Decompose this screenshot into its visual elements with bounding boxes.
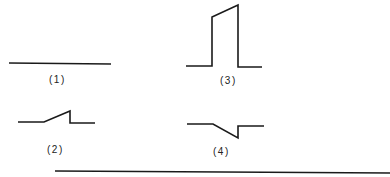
sloped-pulse-shape xyxy=(186,5,262,67)
ramp-up-drop-shape xyxy=(18,111,95,123)
figure-4: (4) xyxy=(187,124,264,157)
figure-1-label: (1) xyxy=(49,74,66,85)
figure-3: (3) xyxy=(186,5,262,86)
figure-3-label: (3) xyxy=(220,75,237,86)
figure-2: (2) xyxy=(18,111,95,155)
figure-2-label: (2) xyxy=(47,144,64,155)
figure-1: (1) xyxy=(9,63,111,85)
figure-4-label: (4) xyxy=(213,146,230,157)
waveform-diagram: (1) (3) (2) (4) xyxy=(0,0,390,177)
flat-line-shape xyxy=(9,63,111,64)
bottom-divider-line xyxy=(55,171,390,173)
ramp-down-rise-shape xyxy=(187,124,264,138)
